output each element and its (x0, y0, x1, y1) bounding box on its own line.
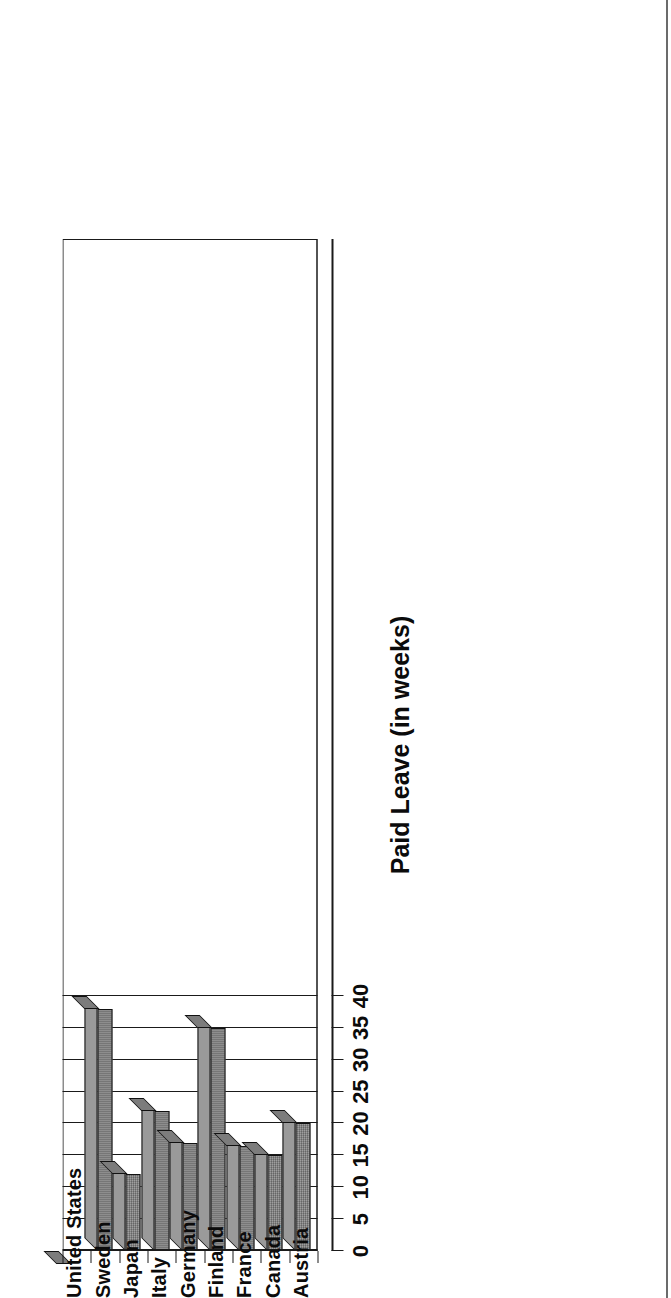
bar-top-face (112, 1162, 125, 1252)
category-label: Finland (204, 1267, 227, 1298)
value-tick (331, 1091, 343, 1092)
category-label: Italy (147, 1267, 170, 1298)
category-label: Austria (289, 1267, 312, 1298)
bar-face (97, 1009, 112, 1251)
bar-end-face (128, 1098, 156, 1111)
category-tick (317, 1251, 318, 1263)
value-tick (331, 1027, 343, 1028)
value-tick (331, 1218, 343, 1219)
bar-top-face (141, 1098, 154, 1251)
scanned-page: United StatesSwedenJapanItalyGermanyFinl… (0, 0, 671, 1298)
plot-area (62, 239, 317, 1251)
value-tick (331, 1059, 343, 1060)
bar (97, 1009, 112, 1251)
category-label: France (232, 1267, 255, 1298)
value-label: 20 (347, 1111, 373, 1135)
category-label: Canada (261, 1267, 284, 1298)
value-label: 10 (347, 1175, 373, 1199)
value-tick (331, 1186, 343, 1187)
category-label: Japan (119, 1267, 142, 1298)
category-label: Sweden (91, 1267, 114, 1298)
bar-series (62, 239, 317, 1251)
bar-top-face (84, 996, 97, 1251)
category-label: United States (62, 1267, 85, 1298)
value-label: 25 (347, 1079, 373, 1103)
plot-depth-top (47, 239, 62, 1251)
value-label: 15 (347, 1143, 373, 1167)
value-baseline (316, 239, 317, 1251)
value-label: 40 (347, 984, 373, 1008)
value-tick (331, 1123, 343, 1124)
value-axis (331, 239, 333, 1251)
bar-end-face (184, 1015, 212, 1028)
bar-end-face (269, 1111, 297, 1124)
bar-end-face (71, 996, 99, 1009)
value-tick (331, 1154, 343, 1155)
category-label: Germany (176, 1267, 199, 1298)
value-label: 35 (347, 1016, 373, 1040)
value-label: 0 (347, 1245, 373, 1257)
value-label: 5 (347, 1213, 373, 1225)
value-tick (331, 1250, 343, 1251)
value-tick (331, 995, 343, 996)
value-label: 30 (347, 1048, 373, 1072)
bar-top-face (197, 1015, 210, 1251)
value-axis-title: Paid Leave (in weeks) (385, 239, 414, 1251)
bar-chart-figure: United StatesSwedenJapanItalyGermanyFinl… (0, 0, 671, 1298)
rotated-figure-wrapper: United StatesSwedenJapanItalyGermanyFinl… (0, 0, 671, 1298)
